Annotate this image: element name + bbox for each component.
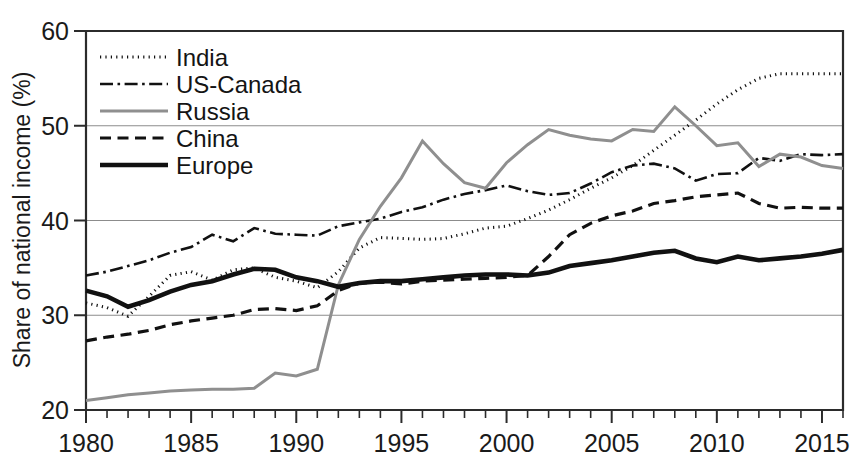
line-chart-figure: 19801985199019952000200520102015 2030405…	[0, 0, 864, 466]
chart-legend: IndiaUS-CanadaRussiaChinaEurope	[100, 44, 302, 179]
legend-label-text: Russia	[176, 98, 250, 125]
x-tick-label-1990: 1990	[268, 429, 324, 457]
x-tick-label-2000: 2000	[479, 429, 535, 457]
y-axis-ticks	[74, 31, 86, 410]
legend-item-us-canada: US-Canada	[100, 71, 302, 98]
legend-label-text: China	[176, 125, 239, 152]
series-line-china	[86, 193, 843, 341]
x-axis-ticks	[86, 410, 843, 423]
x-tick-label-1985: 1985	[163, 429, 219, 457]
y-tick-label-40: 40	[41, 207, 69, 235]
legend-label-text: India	[176, 44, 229, 71]
legend-label-text: US-Canada	[176, 71, 302, 98]
x-tick-label-2015: 2015	[794, 429, 850, 457]
x-tick-label-1980: 1980	[58, 429, 114, 457]
x-axis-tick-labels: 19801985199019952000200520102015	[58, 429, 850, 457]
legend-item-china: China	[100, 125, 239, 152]
y-tick-label-50: 50	[41, 112, 69, 140]
y-axis-tick-labels: 2030405060	[41, 17, 69, 424]
y-tick-label-20: 20	[41, 396, 69, 424]
x-tick-label-2010: 2010	[689, 429, 745, 457]
legend-item-russia: Russia	[100, 98, 250, 125]
y-axis-title: Share of national income (%)	[9, 72, 35, 369]
y-tick-label-60: 60	[41, 17, 69, 45]
y-tick-label-30: 30	[41, 301, 69, 329]
legend-label-text: Europe	[176, 152, 253, 179]
x-tick-label-2005: 2005	[584, 429, 640, 457]
legend-item-india: India	[100, 44, 229, 71]
x-tick-label-1995: 1995	[374, 429, 430, 457]
legend-item-europe: Europe	[100, 152, 253, 179]
chart-canvas: 19801985199019952000200520102015 2030405…	[0, 0, 864, 466]
